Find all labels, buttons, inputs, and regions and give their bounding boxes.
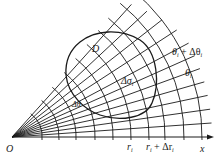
diagram-canvas: O x D Δσi Δθ θi + Δθi θi ri ri + Δri — [0, 0, 222, 160]
ray-line — [12, 123, 212, 137]
radius-label-r-i: ri — [127, 141, 133, 153]
radius-label-r-i-plus: ri + Δri — [146, 141, 174, 153]
region-label: D — [91, 43, 100, 54]
ray-line — [12, 56, 195, 137]
ray-label-theta-i: θi — [185, 67, 192, 79]
origin-label: O — [6, 143, 13, 154]
x-axis-arrow-icon — [207, 135, 214, 140]
x-axis-label: x — [199, 143, 205, 154]
ray-label-theta-i-plus: θi + Δθi — [172, 46, 202, 58]
polar-partition-diagram: O x D Δσi Δθ θi + Δθi θi ri ri + Δri — [0, 0, 222, 160]
radial-rays — [12, 4, 212, 137]
cell-label: Δσi — [120, 75, 134, 87]
ray-line — [12, 82, 204, 137]
angle-label: Δθ — [71, 100, 81, 109]
